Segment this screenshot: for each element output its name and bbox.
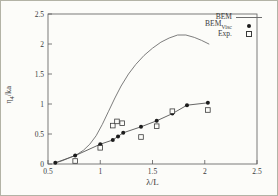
legend: BEM BEMVisc Exp.: [151, 13, 263, 39]
data-point-filled-circle: [139, 125, 143, 129]
legend-item-exp: Exp.: [151, 30, 263, 39]
legend-item-bem-visc: BEMVisc: [151, 22, 263, 31]
data-point-filled-circle: [73, 154, 77, 158]
data-point-filled-circle: [121, 131, 125, 135]
y-axis-label: η4/ka: [3, 73, 15, 117]
x-tick-label: 1: [98, 167, 102, 176]
data-point-open-square: [120, 121, 125, 126]
y-tick-label: 1.5: [35, 70, 45, 79]
data-point-filled-circle: [53, 161, 57, 165]
data-point-filled-circle: [111, 138, 115, 142]
data-point-open-square: [206, 108, 211, 113]
x-tick-label: 2: [203, 167, 207, 176]
y-tick-label: 2.5: [35, 10, 45, 19]
legend-label-exp: Exp.: [218, 30, 232, 39]
data-point-open-square: [170, 109, 175, 114]
data-point-filled-circle: [155, 119, 159, 123]
x-tick-label: 2.5: [252, 167, 262, 176]
x-axis-label: λ/L: [48, 177, 257, 187]
chart-figure: 0.511.522.500.511.522.5 η4/ka λ/L BEM BE…: [0, 0, 278, 196]
y-axis-label-subscript: 4: [9, 96, 15, 99]
y-tick-label: 1: [40, 100, 44, 109]
x-tick-label: 0.5: [43, 167, 53, 176]
filled-circle-marker-icon: [235, 22, 263, 30]
x-tick-label: 1.5: [148, 167, 158, 176]
data-point-open-square: [98, 146, 103, 151]
open-square-marker-icon: [235, 30, 263, 38]
series-line-bem-visc: [55, 103, 208, 163]
y-axis-label-base: η: [3, 99, 13, 103]
data-point-filled-circle: [206, 101, 210, 105]
y-tick-label: 2: [40, 40, 44, 49]
data-point-open-square: [139, 135, 144, 140]
y-tick-label: 0.5: [35, 130, 45, 139]
data-point-open-square: [73, 159, 78, 164]
bem-line-sample-icon: [235, 13, 263, 21]
data-point-open-square: [154, 124, 159, 129]
data-point-open-square: [115, 119, 120, 124]
y-tick-label: 0: [40, 160, 44, 169]
data-point-filled-circle: [185, 103, 189, 107]
data-point-filled-circle: [116, 134, 120, 138]
series-line-bem: [55, 35, 209, 163]
y-axis-label-rest: /ka: [3, 86, 13, 96]
